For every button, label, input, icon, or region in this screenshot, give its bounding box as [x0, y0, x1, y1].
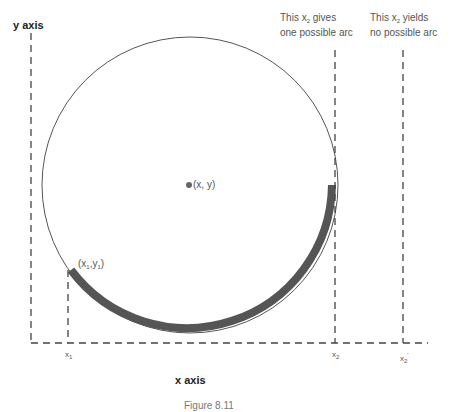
annotation-x2-prime: This x2 yields no possible arc	[370, 12, 437, 39]
tick-x2-prime: x2'	[400, 349, 409, 367]
annotation-x2: This x2 gives one possible arc	[280, 12, 353, 39]
x-axis-label: x axis	[175, 374, 206, 386]
highlighted-arc	[71, 185, 332, 328]
center-label: (x, y)	[193, 179, 215, 191]
point1-label: (x1,y1)	[78, 258, 104, 273]
tick-x1: x1	[65, 349, 72, 363]
center-dot	[186, 182, 192, 188]
y-axis-label: y axis	[13, 19, 44, 31]
tick-x2: x2	[332, 349, 339, 363]
figure-caption: Figure 8.11	[184, 400, 234, 412]
